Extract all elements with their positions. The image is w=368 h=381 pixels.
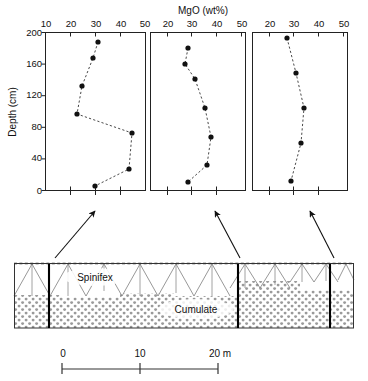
y-tick-label: 120	[26, 89, 42, 100]
x-tick-label: 30	[289, 18, 300, 29]
data-point	[185, 45, 190, 50]
data-point	[79, 83, 84, 88]
panel-1-x-tick-labels: 10 20 30 40 50	[41, 18, 151, 29]
y-tick-label: 40	[31, 152, 42, 163]
figure-svg: MgO (wt%) Depth (cm) 200 160 120 80 40 0…	[0, 0, 368, 381]
panel-3-ticks	[270, 33, 344, 196]
x-tick-label: 50	[237, 18, 248, 29]
data-point	[284, 35, 289, 40]
cross-section: Spinifex Cumulate	[14, 263, 354, 328]
data-point	[129, 130, 134, 135]
panel-1-series-line	[77, 42, 132, 186]
y-tick-label: 0	[37, 185, 42, 196]
panel-3-points	[284, 35, 306, 183]
y-tick-labels: 200 160 120 80 40 0	[26, 27, 42, 196]
panel-1-frame	[46, 33, 146, 191]
arrow-to-panel-3	[310, 211, 334, 258]
x-tick-label: 20	[163, 18, 174, 29]
x-tick-label: 40	[212, 18, 223, 29]
x-axis-title: MgO (wt%)	[178, 5, 228, 16]
panel-2-points	[182, 45, 213, 184]
data-point	[301, 105, 306, 110]
panel-3-series-line	[287, 38, 304, 181]
spinifex-label-group: Spinifex	[63, 268, 127, 286]
data-point	[90, 55, 95, 60]
panel-2-x-tick-labels: 20 30 40 50	[163, 18, 248, 29]
scale-label: 20 m	[209, 348, 231, 359]
spinifex-label: Spinifex	[77, 272, 113, 283]
cumulate-label-group: Cumulate	[158, 299, 234, 319]
y-axis-title: Depth (cm)	[7, 87, 18, 136]
data-point	[298, 140, 303, 145]
panel-1: 10 20 30 40 50	[41, 18, 151, 195]
panel-1-points	[74, 39, 134, 188]
x-tick-label: 20	[265, 18, 276, 29]
data-point	[288, 178, 293, 183]
x-tick-label: 40	[116, 18, 127, 29]
y-tick-label: 80	[31, 121, 42, 132]
panel-3-x-tick-labels: 20 30 40 50	[265, 18, 350, 29]
panel-3-frame	[253, 33, 348, 191]
panel-2: 20 30 40 50	[151, 18, 248, 195]
x-tick-label: 30	[91, 18, 102, 29]
panel-3: 20 30 40 50	[253, 18, 350, 195]
y-tick-label: 200	[26, 27, 42, 38]
data-point	[204, 162, 209, 167]
y-tick-label: 160	[26, 58, 42, 69]
scale-label: 0	[60, 348, 66, 359]
scale-label: 10	[134, 348, 146, 359]
data-point	[293, 70, 298, 75]
panel-2-ticks	[168, 33, 242, 196]
x-tick-label: 50	[339, 18, 350, 29]
panel-2-frame	[151, 33, 246, 191]
scale-bar: 0 10 20 m	[60, 348, 231, 374]
cumulate-label: Cumulate	[175, 304, 218, 315]
data-point	[74, 111, 79, 116]
x-tick-label: 10	[41, 18, 52, 29]
data-point	[182, 61, 187, 66]
data-point	[192, 76, 197, 81]
data-point	[185, 179, 190, 184]
data-point	[208, 134, 213, 139]
data-point	[202, 105, 207, 110]
arrow-to-panel-1	[55, 211, 95, 258]
x-tick-label: 20	[66, 18, 77, 29]
x-tick-label: 30	[187, 18, 198, 29]
figure-root: MgO (wt%) Depth (cm) 200 160 120 80 40 0…	[0, 0, 368, 381]
data-point	[126, 166, 131, 171]
arrow-to-panel-2	[215, 211, 240, 258]
x-tick-label: 40	[314, 18, 325, 29]
connector-arrows	[55, 211, 334, 258]
panel-2-series-line	[185, 48, 211, 182]
x-tick-label: 50	[140, 18, 151, 29]
data-point	[92, 183, 97, 188]
data-point	[95, 39, 100, 44]
